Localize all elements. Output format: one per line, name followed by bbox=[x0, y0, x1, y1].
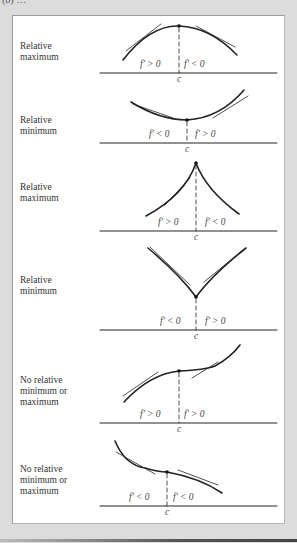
p1-right-sign: f' < 0 bbox=[184, 59, 205, 69]
p6-c-label: c bbox=[165, 507, 170, 517]
curve-right bbox=[196, 163, 239, 214]
tangent-right bbox=[178, 470, 218, 485]
p3-right-sign: f' < 0 bbox=[205, 217, 226, 227]
p2-c-label: c bbox=[185, 144, 190, 154]
p5-left-sign: f' > 0 bbox=[140, 409, 161, 419]
p4-right-sign: f' > 0 bbox=[205, 316, 226, 326]
critical-point bbox=[194, 161, 198, 165]
tangent-left bbox=[150, 247, 190, 285]
p4-left-sign: f' < 0 bbox=[160, 316, 181, 326]
tangent-right bbox=[204, 250, 243, 282]
tangent-right bbox=[213, 96, 248, 118]
curve bbox=[123, 26, 237, 60]
tangent-left bbox=[116, 452, 155, 474]
curve-left bbox=[146, 163, 196, 216]
tangent-right bbox=[196, 26, 235, 47]
critical-point bbox=[165, 470, 169, 474]
critical-point bbox=[185, 118, 189, 122]
p6-right-sign: f' < 0 bbox=[173, 492, 194, 502]
curve bbox=[131, 90, 244, 120]
graph-relative-minimum-smooth bbox=[100, 90, 277, 143]
p2-left-sign: f' < 0 bbox=[149, 129, 170, 139]
critical-point bbox=[177, 369, 181, 373]
tangent-left bbox=[133, 104, 173, 118]
p2-right-sign: f' > 0 bbox=[195, 129, 216, 139]
graph-relative-maximum-cusp bbox=[100, 161, 277, 231]
critical-point bbox=[177, 24, 181, 28]
curve-left bbox=[148, 248, 196, 297]
tangent-left bbox=[126, 24, 161, 51]
p4-c-label: c bbox=[194, 331, 199, 341]
p1-c-label: c bbox=[177, 74, 182, 84]
critical-point bbox=[194, 295, 198, 299]
p5-c-label: c bbox=[177, 424, 182, 434]
tangent-left bbox=[165, 178, 190, 205]
graphs-canvas: f' > 0 f' < 0 c f' < 0 f' > 0 c f' > 0 f… bbox=[0, 0, 297, 543]
curve bbox=[124, 345, 240, 402]
curve-right bbox=[196, 248, 246, 297]
bottom-rule bbox=[0, 539, 297, 542]
p1-left-sign: f' > 0 bbox=[140, 59, 161, 69]
p5-right-sign: f' > 0 bbox=[184, 409, 205, 419]
p3-left-sign: f' > 0 bbox=[158, 217, 179, 227]
graph-relative-minimum-corner bbox=[100, 247, 277, 330]
curve bbox=[115, 441, 222, 493]
p6-left-sign: f' < 0 bbox=[129, 492, 150, 502]
tangent-left bbox=[123, 372, 158, 396]
p3-c-label: c bbox=[194, 232, 199, 242]
